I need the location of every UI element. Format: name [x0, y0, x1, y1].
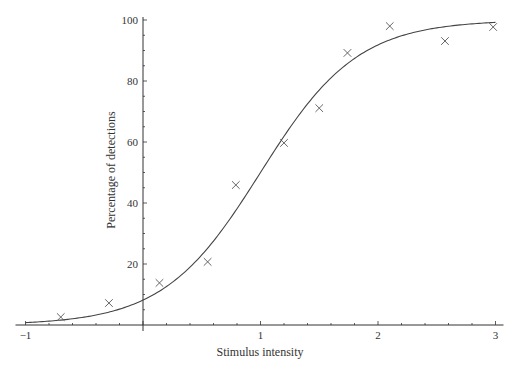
x-marker-icon	[232, 181, 240, 189]
x-marker-icon	[489, 23, 497, 31]
y-axis-label: Percentage of detections	[104, 111, 118, 229]
y-tick-label: 100	[122, 14, 139, 26]
x-marker-icon	[204, 258, 212, 266]
x-marker-icon	[315, 104, 323, 112]
x-marker-icon	[156, 279, 164, 287]
x-tick-label: 3	[493, 329, 499, 341]
x-axis-label: Stimulus intensity	[216, 345, 303, 359]
x-marker-icon	[441, 37, 449, 45]
fitted-curve-path	[26, 22, 496, 322]
fitted-curve	[26, 22, 496, 322]
x-marker-icon	[280, 139, 288, 147]
x-tick-label: 2	[375, 329, 381, 341]
x-tick-label: 1	[258, 329, 264, 341]
axes: −112320406080100	[16, 14, 504, 341]
data-points	[57, 22, 497, 321]
labels: Stimulus intensity Percentage of detecti…	[104, 111, 304, 359]
y-tick-label: 40	[127, 197, 139, 209]
y-tick-label: 20	[127, 258, 139, 270]
y-tick-label: 60	[127, 136, 139, 148]
y-tick-label: 80	[127, 75, 139, 87]
x-tick-label: −1	[20, 329, 32, 341]
chart: −112320406080100 Stimulus intensity Perc…	[0, 0, 516, 371]
x-marker-icon	[344, 49, 352, 57]
x-marker-icon	[386, 22, 394, 30]
x-marker-icon	[105, 299, 113, 307]
